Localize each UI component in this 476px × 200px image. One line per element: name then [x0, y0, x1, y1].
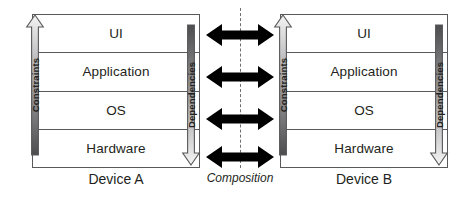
device-a-layer-ui: UI [33, 15, 199, 53]
device-b-caption: Device B [280, 171, 448, 187]
device-b-layer-stack: UI Application OS Hardware [280, 14, 448, 168]
layer-label: UI [357, 26, 371, 41]
device-a-constraints-arrow: Constraints [26, 14, 44, 156]
composition-arrow-3 [206, 106, 274, 132]
device-a-group: UI Application OS Hardware [32, 14, 200, 168]
composition-group [206, 8, 274, 168]
down-arrow-icon [430, 24, 448, 166]
double-arrow-icon [206, 144, 274, 170]
composition-arrow-1 [206, 22, 274, 48]
device-b-layer-application: Application [281, 53, 447, 91]
double-arrow-icon [206, 106, 274, 132]
layer-label: Hardware [334, 141, 393, 156]
composition-arrow-2 [206, 64, 274, 90]
device-b-dependencies-arrow: Dependencies [430, 24, 448, 166]
diagram-canvas: UI Application OS Hardware [0, 0, 476, 200]
device-b-layer-os: OS [281, 92, 447, 130]
layer-label: OS [106, 103, 126, 118]
device-b-layer-ui: UI [281, 15, 447, 53]
device-a-layer-hardware: Hardware [33, 130, 199, 167]
device-b-constraints-arrow: Constraints [274, 14, 292, 156]
device-a-dependencies-arrow: Dependencies [182, 24, 200, 166]
device-a-layer-stack: UI Application OS Hardware [32, 14, 200, 168]
layer-label: Application [82, 64, 149, 79]
device-a-layer-os: OS [33, 92, 199, 130]
composition-arrow-4 [206, 144, 274, 170]
up-arrow-icon [26, 14, 44, 156]
layer-label: Application [330, 64, 397, 79]
layer-label: OS [354, 103, 374, 118]
layer-label: Hardware [86, 141, 145, 156]
device-b-layer-hardware: Hardware [281, 130, 447, 167]
up-arrow-icon [274, 14, 292, 156]
device-a-layer-application: Application [33, 53, 199, 91]
device-b-group: UI Application OS Hardware [280, 14, 448, 168]
layer-label: UI [109, 26, 123, 41]
double-arrow-icon [206, 64, 274, 90]
double-arrow-icon [206, 22, 274, 48]
composition-label: Composition [196, 171, 284, 185]
down-arrow-icon [182, 24, 200, 166]
device-a-caption: Device A [32, 171, 200, 187]
